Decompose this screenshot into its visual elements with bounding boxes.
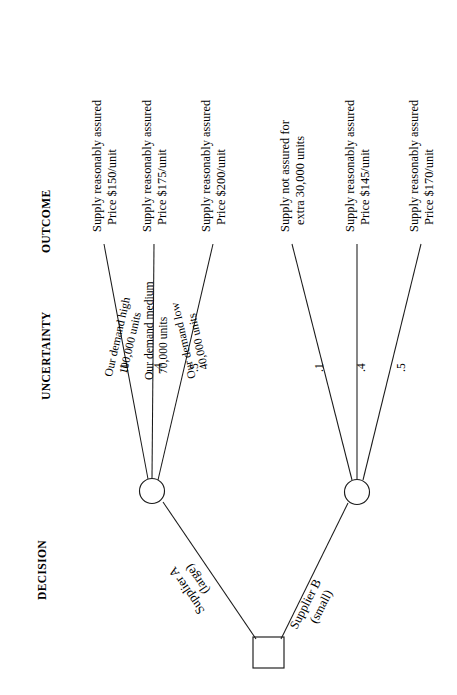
probability-label-a2: .4 — [152, 363, 166, 372]
outcome-2-line-1: Supply reasonably assured — [140, 100, 154, 232]
decision-node-square — [253, 637, 284, 668]
outcome-6-line-1: Supply reasonably assured — [407, 100, 421, 232]
outcome-label-4: Supply not assured for extra 30,000 unit… — [278, 120, 307, 232]
tree-graphic — [0, 0, 457, 695]
outcome-5-line-2: Price $145/unit — [358, 100, 373, 232]
outcome-label-3: Supply reasonably assured Price $200/uni… — [199, 100, 228, 232]
outcome-3-line-1: Supply reasonably assured — [199, 100, 213, 232]
outcome-2-line-2: Price $175/unit — [155, 100, 170, 232]
column-header-outcome: OUTCOME — [40, 190, 54, 254]
outcome-label-2: Supply reasonably assured Price $175/uni… — [140, 100, 169, 232]
probability-label-a1: .1 — [118, 363, 132, 372]
outcome-1-line-1: Supply reasonably assured — [90, 100, 104, 232]
chance-node-b-circle — [345, 480, 370, 505]
outcome-6-line-2: Price $170/unit — [422, 100, 437, 232]
outcome-label-5: Supply reasonably assured Price $145/uni… — [343, 100, 372, 232]
probability-label-b3: .5 — [395, 363, 409, 372]
decision-tree-figure: OUTCOME UNCERTAINTY DECISION Supply reas… — [0, 0, 457, 695]
column-header-decision: DECISION — [36, 540, 50, 600]
chance-b-branch-3-line — [363, 244, 421, 480]
probability-label-a3: .5 — [188, 363, 202, 372]
outcome-1-line-2: Price $150/unit — [105, 100, 120, 232]
probability-label-b1: .1 — [313, 363, 327, 372]
outcome-4-line-1: Supply not assured for — [278, 120, 292, 232]
outcome-5-line-1: Supply reasonably assured — [343, 100, 357, 232]
column-header-uncertainty: UNCERTAINTY — [40, 311, 54, 400]
outcome-3-line-2: Price $200/unit — [214, 100, 229, 232]
chance-b-branch-1-line — [292, 244, 352, 480]
chance-node-a-circle — [140, 479, 165, 504]
outcome-4-line-2: extra 30,000 units — [293, 120, 308, 232]
probability-label-b2: .4 — [355, 363, 369, 372]
outcome-label-1: Supply reasonably assured Price $150/uni… — [90, 100, 119, 232]
outcome-label-6: Supply reasonably assured Price $170/uni… — [407, 100, 436, 232]
